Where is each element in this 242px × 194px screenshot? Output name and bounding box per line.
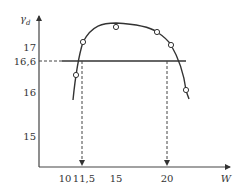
y-tick-16: 16 (23, 87, 36, 98)
data-point (113, 24, 118, 29)
x-tick-20: 20 (161, 173, 174, 184)
y-axis-label: γd (20, 13, 31, 27)
data-points (73, 24, 188, 92)
data-point (168, 42, 173, 47)
y-tick-15: 15 (23, 131, 36, 142)
x-tick-11-5: 11,5 (73, 173, 95, 184)
data-point (73, 72, 78, 77)
data-point (154, 29, 159, 34)
y-tick-17: 17 (23, 42, 36, 53)
x-tick-10: 10 (59, 173, 72, 184)
x-tick-15: 15 (110, 173, 123, 184)
data-point (183, 87, 188, 92)
compaction-chart: γd 17 16,6 16 15 10 11,5 15 20 W (0, 0, 242, 194)
x-axis-label: W (221, 173, 232, 184)
y-tick-16-6: 16,6 (14, 56, 36, 67)
data-point (80, 39, 85, 44)
